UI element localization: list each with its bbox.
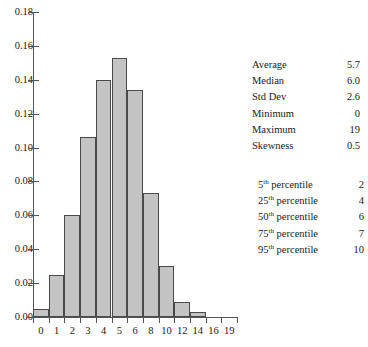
x-tick-mark — [33, 317, 34, 323]
bar — [96, 80, 112, 317]
y-axis-line — [33, 12, 34, 318]
stat-label: Skewness — [252, 138, 293, 154]
percentile-number: 50 — [258, 211, 269, 222]
percentile-number: 95 — [258, 244, 269, 255]
bar — [64, 215, 80, 317]
x-tick-label: 6 — [132, 325, 137, 336]
x-tick-label: 8 — [148, 325, 153, 336]
x-tick-label: 4 — [101, 325, 106, 336]
stat-value: 6.0 — [344, 73, 360, 89]
x-tick-label: 2 — [70, 325, 75, 336]
x-tick-label: 14 — [193, 325, 204, 336]
summary-stat-row: Minimum0 — [252, 106, 360, 122]
summary-statistics-panel: Average5.7Median6.0Std Dev2.6Minimum0Max… — [252, 57, 360, 154]
percentile-stat-row: 75th percentile7 — [252, 226, 364, 242]
summary-stat-row: Skewness0.5 — [252, 138, 360, 154]
stat-label: Std Dev — [252, 89, 286, 105]
stat-label: Average — [252, 57, 287, 73]
stat-value: 5.7 — [344, 57, 360, 73]
summary-stat-row: Std Dev2.6 — [252, 89, 360, 105]
bar — [159, 266, 175, 317]
stat-value: 0 — [344, 106, 360, 122]
percentile-value: 10 — [348, 242, 364, 258]
stat-label: Median — [252, 73, 284, 89]
x-tick-mark — [49, 317, 50, 323]
x-tick-mark — [127, 317, 128, 323]
bar — [112, 58, 128, 317]
stat-value: 19 — [344, 122, 360, 138]
percentile-word: percentile — [274, 195, 318, 206]
percentile-word: percentile — [274, 211, 318, 222]
x-tick-mark — [80, 317, 81, 323]
x-tick-label: 0 — [38, 325, 43, 336]
x-tick-mark — [112, 317, 113, 323]
percentile-value: 7 — [348, 226, 364, 242]
percentile-label: 95th percentile — [258, 242, 318, 258]
x-tick-mark — [64, 317, 65, 323]
stat-label: Maximum — [252, 122, 296, 138]
stat-value: 0.5 — [344, 138, 360, 154]
percentile-stat-row: 50th percentile6 — [252, 209, 364, 225]
percentile-word: percentile — [274, 244, 318, 255]
bar — [49, 275, 65, 317]
percentile-label: 5th percentile — [258, 177, 313, 193]
percentile-word: percentile — [274, 228, 318, 239]
plot-area: 0.000.020.040.060.080.100.120.140.160.18… — [0, 0, 240, 347]
x-tick-mark — [190, 317, 191, 323]
bar — [80, 137, 96, 317]
x-tick-label: 19 — [224, 325, 235, 336]
x-tick-mark — [159, 317, 160, 323]
x-tick-mark — [96, 317, 97, 323]
x-tick-mark — [143, 317, 144, 323]
percentile-label: 50th percentile — [258, 209, 318, 225]
percentile-word: percentile — [269, 179, 313, 190]
bar — [127, 90, 143, 317]
summary-stat-row: Average5.7 — [252, 57, 360, 73]
x-tick-mark — [206, 317, 207, 323]
bar — [143, 193, 159, 317]
percentile-number: 75 — [258, 228, 269, 239]
x-tick-label: 3 — [85, 325, 90, 336]
x-tick-mark — [237, 317, 238, 323]
x-tick-label: 12 — [177, 325, 188, 336]
percentile-value: 4 — [348, 193, 364, 209]
bar — [33, 309, 49, 317]
x-tick-label: 16 — [208, 325, 219, 336]
percentile-label: 25th percentile — [258, 193, 318, 209]
percentile-stat-row: 95th percentile10 — [252, 242, 364, 258]
percentile-stat-row: 5th percentile2 — [252, 177, 364, 193]
percentile-value: 6 — [348, 209, 364, 225]
y-axis-labels: 0.000.020.040.060.080.100.120.140.160.18 — [0, 0, 33, 347]
x-tick-mark — [221, 317, 222, 323]
x-tick-label: 5 — [117, 325, 122, 336]
x-tick-label: 10 — [161, 325, 172, 336]
percentile-statistics-panel: 5th percentile225th percentile450th perc… — [252, 177, 364, 258]
x-tick-mark — [174, 317, 175, 323]
stat-label: Minimum — [252, 106, 294, 122]
percentile-value: 2 — [348, 177, 364, 193]
histogram-chart: 0.000.020.040.060.080.100.120.140.160.18… — [0, 0, 368, 347]
summary-stat-row: Median6.0 — [252, 73, 360, 89]
percentile-label: 75th percentile — [258, 226, 318, 242]
x-tick-label: 1 — [54, 325, 59, 336]
stat-value: 2.6 — [344, 89, 360, 105]
bar — [174, 302, 190, 317]
percentile-stat-row: 25th percentile4 — [252, 193, 364, 209]
summary-stat-row: Maximum19 — [252, 122, 360, 138]
percentile-number: 25 — [258, 195, 269, 206]
